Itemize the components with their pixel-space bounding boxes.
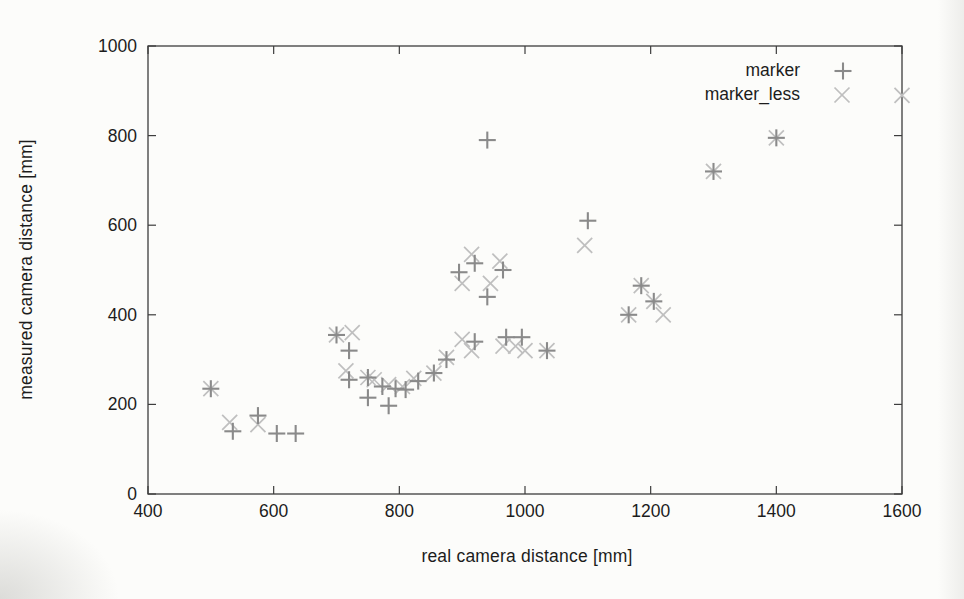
x-tick-label: 800 xyxy=(385,501,414,521)
x-tick-label: 1600 xyxy=(883,501,922,521)
y-tick-label: 400 xyxy=(108,305,137,325)
y-tick-label: 1000 xyxy=(98,36,137,56)
x-tick-label: 400 xyxy=(133,501,162,521)
y-tick-label: 0 xyxy=(127,484,137,504)
x-axis-title: real camera distance [mm] xyxy=(327,546,727,567)
y-tick-label: 600 xyxy=(108,215,137,235)
legend-item-marker-label: marker xyxy=(580,60,800,81)
x-tick-label: 1200 xyxy=(631,501,670,521)
y-tick-label: 200 xyxy=(108,394,137,414)
x-tick-label: 1400 xyxy=(757,501,796,521)
y-axis-title: measured camera distance [mm] xyxy=(16,120,37,420)
chart-page: 4006008001000120014001600020040060080010… xyxy=(0,0,964,599)
x-tick-label: 600 xyxy=(259,501,288,521)
scatter-plot: 4006008001000120014001600020040060080010… xyxy=(0,0,964,599)
legend-item-marker-less-label: marker_less xyxy=(580,84,800,105)
x-tick-label: 1000 xyxy=(506,501,545,521)
y-tick-label: 800 xyxy=(108,126,137,146)
